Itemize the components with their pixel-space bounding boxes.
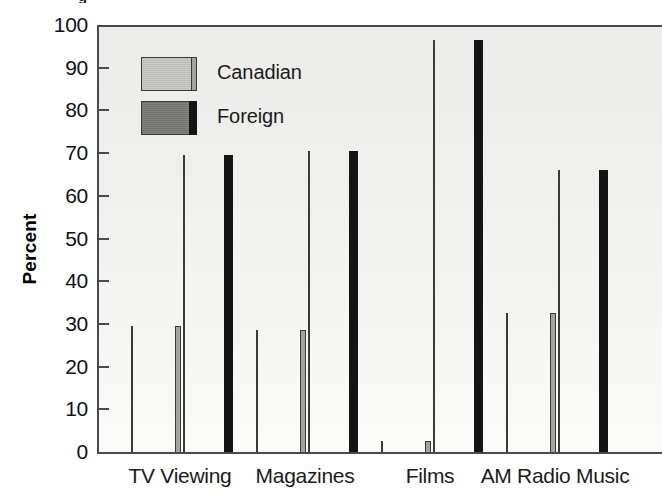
bar-body bbox=[433, 40, 435, 454]
y-axis: 1009080706050403020100 bbox=[0, 0, 88, 502]
x-axis-label-3: AM Radio Music bbox=[481, 464, 630, 488]
bar-canadian-1 bbox=[256, 330, 306, 454]
y-tick-label: 0 bbox=[42, 440, 88, 464]
y-tick-label: 20 bbox=[42, 355, 88, 379]
x-axis-label-0: TV Viewing bbox=[129, 464, 232, 488]
x-axis-label-2: Films bbox=[406, 464, 455, 488]
y-tick-label: 60 bbox=[42, 184, 88, 208]
bar-body bbox=[183, 155, 185, 454]
chart-figure: g 1009080706050403020100 Percent Canadia… bbox=[0, 0, 662, 502]
y-tick-mark bbox=[97, 238, 109, 240]
y-tick-mark bbox=[97, 408, 109, 410]
y-tick-label: 80 bbox=[42, 98, 88, 122]
y-tick-label: 100 bbox=[42, 13, 88, 37]
y-tick-label: 50 bbox=[42, 227, 88, 251]
y-axis-title: Percent bbox=[19, 199, 41, 299]
bar-shadow-edge bbox=[599, 170, 608, 454]
legend-label-foreign: Foreign bbox=[217, 105, 284, 128]
bar-canadian-3 bbox=[506, 313, 556, 454]
y-tick-label: 10 bbox=[42, 397, 88, 421]
bar-body bbox=[131, 326, 133, 454]
legend-swatch-canadian bbox=[141, 57, 197, 91]
bar-foreign-2 bbox=[433, 40, 483, 454]
y-tick-mark bbox=[97, 67, 109, 69]
x-axis-line bbox=[97, 452, 662, 454]
bar-body bbox=[506, 313, 508, 454]
y-tick-label: 90 bbox=[42, 56, 88, 80]
y-tick-label: 30 bbox=[42, 312, 88, 336]
bar-shadow-edge bbox=[175, 326, 181, 454]
bar-body bbox=[558, 170, 560, 454]
legend-swatch-foreign bbox=[141, 101, 197, 135]
y-tick-mark bbox=[97, 366, 109, 368]
bars-layer bbox=[99, 27, 662, 454]
y-tick-mark bbox=[97, 109, 109, 111]
bar-body bbox=[256, 330, 258, 454]
bar-canadian-0 bbox=[131, 326, 181, 454]
bar-body bbox=[308, 151, 310, 454]
bar-shadow-edge bbox=[224, 155, 233, 454]
x-axis-label-1: Magazines bbox=[256, 464, 355, 488]
bar-shadow-edge bbox=[349, 151, 358, 454]
y-tick-mark bbox=[97, 195, 109, 197]
y-tick-mark bbox=[97, 323, 109, 325]
bar-shadow-edge bbox=[550, 313, 556, 454]
bar-foreign-0 bbox=[183, 155, 233, 454]
y-tick-label: 70 bbox=[42, 141, 88, 165]
y-tick-mark bbox=[97, 280, 109, 282]
legend-label-canadian: Canadian bbox=[217, 61, 302, 84]
bar-foreign-3 bbox=[558, 170, 608, 454]
bar-foreign-1 bbox=[308, 151, 358, 454]
y-tick-mark bbox=[97, 152, 109, 154]
bar-shadow-edge bbox=[474, 40, 483, 454]
bar-shadow-edge bbox=[300, 330, 306, 454]
y-tick-label: 40 bbox=[42, 269, 88, 293]
